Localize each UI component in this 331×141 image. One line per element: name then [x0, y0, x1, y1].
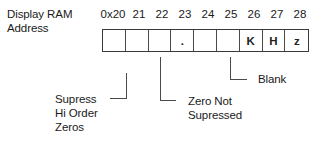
ram-cells: . K H z	[102, 29, 309, 52]
address-label: 24	[196, 7, 220, 21]
callout-line-supress	[126, 73, 127, 98]
callout-text: Hi Order	[55, 106, 98, 120]
callout-text: Blank	[258, 72, 286, 86]
ram-cell	[103, 30, 126, 51]
ram-cell: H	[263, 30, 286, 51]
ram-cell	[217, 30, 240, 51]
ram-cell	[126, 30, 149, 51]
address-label: 25	[219, 7, 243, 21]
callout-line-supress-h	[110, 98, 127, 99]
ram-cell: K	[240, 30, 263, 51]
callout-text: Zeros	[55, 120, 84, 134]
callout-line-zero-not	[160, 57, 161, 100]
ram-cell: z	[285, 30, 308, 51]
callout-line-blank	[230, 57, 231, 79]
address-label: 22	[150, 7, 174, 21]
callout-line-zero-not-h	[160, 100, 176, 101]
address-label: 23	[173, 7, 197, 21]
callout-text: Supressed	[188, 108, 242, 122]
address-label: 21	[127, 7, 151, 21]
ram-cell: .	[171, 30, 194, 51]
ram-cell	[149, 30, 172, 51]
address-label: 26	[242, 7, 266, 21]
address-label: 27	[265, 7, 289, 21]
address-label: 28	[288, 7, 312, 21]
callout-text: Zero Not	[188, 94, 232, 108]
address-label: 0x20	[98, 7, 128, 21]
row-label-line2: Address	[7, 21, 49, 35]
callout-text: Supress	[55, 92, 97, 106]
callout-line-blank-h	[230, 79, 247, 80]
row-label-line1: Display RAM	[7, 7, 72, 21]
ram-cell	[194, 30, 217, 51]
